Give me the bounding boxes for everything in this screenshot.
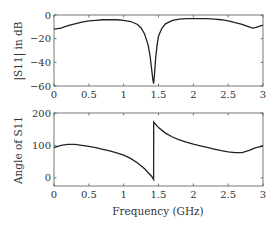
y-axis-label: |S11| in dB	[12, 21, 26, 80]
x-tick-label: 1	[120, 189, 126, 200]
y-tick-label: −60	[30, 81, 51, 92]
y-tick-label: 100	[32, 140, 51, 151]
x-tick-label: 2.5	[220, 89, 236, 100]
plot-frame	[54, 113, 263, 186]
magnitude-line	[54, 19, 263, 84]
magnitude-plot: 0−20−40−60 00.511.522.53 |S11| in dB	[12, 10, 266, 101]
x-tick-label: 2.5	[220, 189, 236, 200]
y-tick-label: −20	[30, 33, 51, 44]
x-tick-label: 2	[190, 189, 196, 200]
x-tick-label: 0.5	[81, 89, 97, 100]
x-tick-label: 1.5	[151, 89, 167, 100]
y-ticks: 0−20−40−60	[30, 10, 263, 92]
x-tick-label: 2	[190, 89, 196, 100]
x-tick-label: 0	[51, 89, 57, 100]
y-tick-label: 0	[45, 10, 51, 21]
x-tick-label: 1	[120, 89, 126, 100]
x-tick-label: 3	[260, 89, 266, 100]
x-tick-label: 1.5	[151, 189, 167, 200]
x-tick-label: 0	[51, 189, 57, 200]
figure: 0−20−40−60 00.511.522.53 |S11| in dB 200…	[0, 0, 278, 226]
x-tick-label: 3	[260, 189, 266, 200]
y-axis-label: Angle of S11	[12, 116, 24, 185]
x-axis-label: Frequency (GHz)	[112, 205, 203, 217]
x-ticks: 00.511.522.53	[51, 15, 266, 100]
x-tick-label: 0.5	[81, 189, 97, 200]
plot-frame	[54, 15, 263, 86]
phase-line	[54, 122, 263, 179]
y-tick-label: 200	[32, 108, 51, 119]
y-tick-label: 0	[45, 172, 51, 183]
y-tick-label: −40	[30, 57, 51, 68]
phase-plot: 2001000 00.511.522.53 Angle of S11 Frequ…	[12, 108, 266, 218]
x-ticks: 00.511.522.53	[51, 113, 266, 200]
